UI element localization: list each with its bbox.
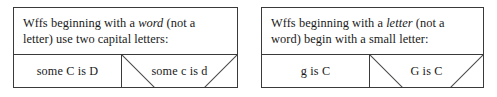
example-label-word-allowed: some C is D [37,64,99,78]
example-cell-word-allowed: some C is D [14,55,122,87]
example-row-letter: g is C G is C [262,55,483,87]
example-cell-letter-crossed-out: G is C [370,55,483,87]
example-cell-word-crossed-out: some c is d [122,55,237,87]
rule-text-letter: Wffs beginning with a letter (not a word… [271,15,474,48]
rule-row-letter: Wffs beginning with a letter (not a word… [262,8,483,55]
rule-row-word: Wffs beginning with a word (not a letter… [14,8,237,55]
rule-text-word: Wffs beginning with a word (not a letter… [23,15,228,48]
rule-text-word-emphasis: word [138,16,163,30]
example-row-word: some C is D some c is d [14,55,237,87]
rule-text-letter-before: Wffs beginning with a [271,16,386,30]
panel-letter-rule: Wffs beginning with a letter (not a word… [261,7,484,88]
example-cell-letter-allowed: g is C [262,55,370,87]
example-label-letter-allowed: g is C [301,64,330,78]
example-label-letter-crossed-out: G is C [410,64,442,78]
panel-word-rule: Wffs beginning with a word (not a letter… [13,7,238,88]
rule-text-letter-emphasis: letter [386,16,412,30]
rule-text-word-before: Wffs beginning with a [23,16,138,30]
wff-convention-figure: Wffs beginning with a word (not a letter… [0,0,497,97]
example-label-word-crossed-out: some c is d [151,64,207,78]
